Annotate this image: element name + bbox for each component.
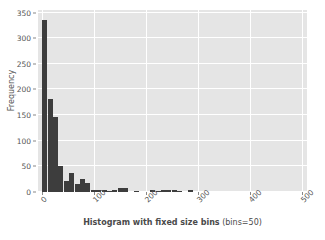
x-tick-label: 0 [39, 195, 49, 205]
y-tick-mark [33, 12, 36, 13]
x-axis-label: Histogram with fixed size bins (bins=50) [38, 218, 307, 227]
histogram-bar [64, 181, 69, 192]
y-tick-label: 250 [17, 59, 31, 68]
histogram-figure: Frequency 050100150200250300350 01002003… [0, 0, 325, 240]
y-tick-mark [33, 166, 36, 167]
gridline-vertical [302, 10, 303, 192]
y-tick-mark [33, 89, 36, 90]
x-axis-label-bold: Histogram with fixed size bins [83, 218, 219, 227]
gridline-horizontal [38, 12, 307, 13]
histogram-bar [69, 173, 74, 192]
gridline-horizontal [38, 114, 307, 115]
gridline-vertical [146, 10, 147, 192]
y-tick-label: 300 [17, 34, 31, 43]
histogram-bar [80, 179, 85, 192]
histogram-bar [85, 183, 90, 192]
gridline-horizontal [38, 37, 307, 38]
y-tick-label: 50 [21, 162, 31, 171]
histogram-bar [42, 20, 47, 192]
y-tick-label: 350 [17, 8, 31, 17]
gridline-horizontal [38, 140, 307, 141]
gridline-vertical [250, 10, 251, 192]
y-tick-mark [33, 38, 36, 39]
y-tick-mark [33, 140, 36, 141]
gridline-vertical [198, 10, 199, 192]
histogram-bar [75, 184, 80, 192]
gridline-horizontal [38, 63, 307, 64]
plot-area [38, 10, 307, 192]
y-tick-label: 150 [17, 111, 31, 120]
y-tick-label: 200 [17, 85, 31, 94]
gridline-horizontal [38, 165, 307, 166]
gridline-vertical [94, 10, 95, 192]
y-tick-mark [33, 192, 36, 193]
y-axis-label: Frequency [7, 16, 16, 166]
histogram-bar [48, 99, 53, 192]
histogram-bar [53, 117, 58, 192]
y-tick-label: 0 [26, 188, 31, 197]
histogram-bar [58, 166, 63, 192]
y-axis: Frequency 050100150200250300350 [0, 10, 38, 192]
gridline-horizontal [38, 88, 307, 89]
x-axis-label-bins: (bins=50) [222, 218, 262, 227]
y-tick-mark [33, 115, 36, 116]
y-tick-label: 100 [17, 136, 31, 145]
y-tick-mark [33, 63, 36, 64]
